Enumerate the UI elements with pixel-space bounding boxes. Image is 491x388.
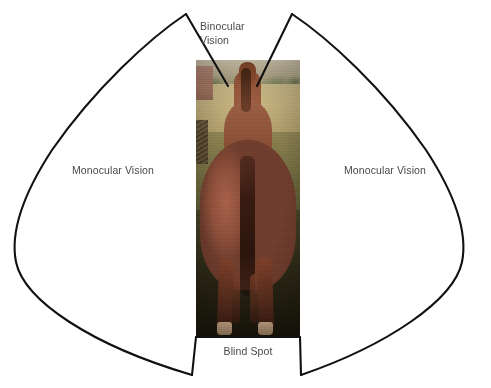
label-monocular-vision-right: Monocular Vision	[325, 164, 445, 177]
monocular-right-cone-outline	[292, 14, 464, 375]
label-monocular-vision-left: Monocular Vision	[53, 164, 173, 177]
vision-cone-outlines	[0, 0, 491, 388]
monocular-left-cone-outline	[15, 14, 193, 375]
label-binocular-vision: Binocular Vision	[200, 20, 292, 47]
horse-vision-diagram: Monocular Vision Monocular Vision Binocu…	[0, 0, 491, 388]
blind-spot-right-edge	[300, 337, 301, 375]
label-blind-spot: Blind Spot	[196, 345, 300, 358]
